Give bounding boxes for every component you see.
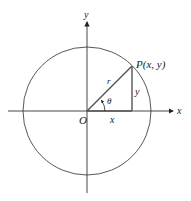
vertical-label: y <box>134 86 140 97</box>
point-label: P(x, y) <box>135 58 166 71</box>
diagram-svg: y x O P(x, y) r x y θ <box>0 0 191 201</box>
angle-arc <box>102 101 106 112</box>
polar-diagram: y x O P(x, y) r x y θ <box>0 0 191 201</box>
y-axis-label: y <box>83 9 89 20</box>
origin-label: O <box>79 114 87 126</box>
horizontal-label: x <box>109 114 115 125</box>
x-axis-label: x <box>176 105 182 116</box>
radius-label: r <box>107 76 111 86</box>
angle-label: θ <box>107 96 112 106</box>
